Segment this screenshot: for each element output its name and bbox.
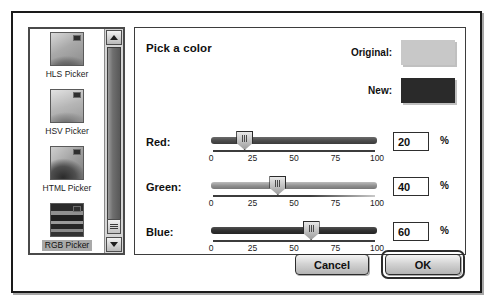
green-tick-axis <box>213 195 375 197</box>
scroll-down-button[interactable] <box>106 237 122 252</box>
red-value-input[interactable]: 20 <box>393 132 429 151</box>
blue-slider-track[interactable] <box>211 227 377 234</box>
blue-slider-label: Blue: <box>146 226 202 238</box>
sidebar-item-label: RGB Picker <box>42 240 92 251</box>
blue-slider[interactable]: 0255075100 <box>211 220 377 254</box>
green-tick-label: 50 <box>289 198 298 209</box>
blue-tick-axis <box>213 240 375 242</box>
dialog-button-bar: Cancel OK <box>295 250 465 279</box>
blue-tick-label: 25 <box>248 243 257 254</box>
red-tick-labels: 0255075100 <box>211 153 377 165</box>
color-panel: Pick a color Original: New: Red: 0255075… <box>134 27 466 255</box>
grip-line <box>110 228 118 229</box>
grip-line <box>110 224 118 225</box>
red-slider-label: Red: <box>146 136 202 148</box>
rgb-picker-thumbnail-icon <box>50 203 84 237</box>
blue-unit-label: % <box>440 225 449 236</box>
ok-button-default-ring: OK <box>381 250 465 279</box>
original-color-label: Original: <box>332 47 392 58</box>
new-color-row: New: <box>332 78 455 103</box>
green-tick-label: 75 <box>331 198 340 209</box>
red-slider[interactable]: 0255075100 <box>211 130 377 164</box>
thumbnail-badge-icon <box>73 149 81 155</box>
page-title: Pick a color <box>146 42 212 54</box>
green-slider-thumb[interactable] <box>269 176 286 195</box>
picker-list-scrollbar[interactable] <box>104 29 123 253</box>
new-color-label: New: <box>332 85 392 96</box>
blue-tick-label: 0 <box>209 243 214 254</box>
scroll-up-button[interactable] <box>106 30 122 45</box>
red-slider-row: Red: 0255075100 20 % <box>146 130 455 172</box>
cancel-button[interactable]: Cancel <box>295 254 369 275</box>
thumb-grip-icon <box>242 135 247 142</box>
sidebar-item-label: HSV Picker <box>42 126 91 137</box>
blue-value-input[interactable]: 60 <box>393 222 429 241</box>
ok-button[interactable]: OK <box>385 254 461 275</box>
original-color-row: Original: <box>332 40 455 65</box>
hls-picker-thumbnail-icon <box>50 32 84 66</box>
new-color-swatch <box>401 78 455 103</box>
sidebar-item-hls-picker[interactable]: HLS Picker <box>30 29 104 86</box>
red-tick-label: 0 <box>209 153 214 164</box>
green-unit-label: % <box>440 180 449 191</box>
sidebar-item-rgb-picker[interactable]: RGB Picker <box>30 200 104 253</box>
scrollbar-thumb[interactable] <box>107 47 121 223</box>
red-tick-axis <box>213 150 375 152</box>
green-tick-label: 25 <box>248 198 257 209</box>
triangle-down-icon <box>110 242 118 247</box>
sidebar-item-hsv-picker[interactable]: HSV Picker <box>30 86 104 143</box>
red-tick-label: 75 <box>331 153 340 164</box>
red-unit-label: % <box>440 135 449 146</box>
red-slider-thumb[interactable] <box>236 131 253 150</box>
triangle-up-icon <box>110 35 118 40</box>
picker-list[interactable]: HLS Picker HSV Picker HTML Picker <box>30 29 104 253</box>
dialog-inner-frame: HLS Picker HSV Picker HTML Picker <box>13 13 480 291</box>
green-value-input[interactable]: 40 <box>393 177 429 196</box>
green-slider[interactable]: 0255075100 <box>211 175 377 209</box>
red-tick-label: 50 <box>289 153 298 164</box>
original-color-swatch <box>401 40 455 65</box>
blue-slider-thumb[interactable] <box>303 221 320 240</box>
green-tick-labels: 0255075100 <box>211 198 377 210</box>
grip-line <box>110 226 118 227</box>
hsv-picker-thumbnail-icon <box>50 89 84 123</box>
green-slider-track[interactable] <box>211 182 377 189</box>
sidebar-item-label: HLS Picker <box>43 69 92 80</box>
green-slider-row: Green: 0255075100 40 % <box>146 175 455 217</box>
red-tick-label: 100 <box>370 153 384 164</box>
sidebar-item-html-picker[interactable]: HTML Picker <box>30 143 104 200</box>
picker-list-frame: HLS Picker HSV Picker HTML Picker <box>28 27 125 255</box>
color-picker-dialog: HLS Picker HSV Picker HTML Picker <box>11 11 482 293</box>
sidebar-item-label: HTML Picker <box>40 183 95 194</box>
html-picker-thumbnail-icon <box>50 146 84 180</box>
resize-grip-icon[interactable] <box>107 219 121 234</box>
red-slider-track[interactable] <box>211 137 377 144</box>
thumb-grip-icon <box>275 180 280 187</box>
green-slider-label: Green: <box>146 181 202 193</box>
thumbnail-badge-icon <box>73 92 81 98</box>
red-tick-label: 25 <box>248 153 257 164</box>
thumbnail-badge-icon <box>73 35 81 41</box>
green-tick-label: 0 <box>209 198 214 209</box>
green-tick-label: 100 <box>370 198 384 209</box>
thumb-grip-icon <box>309 225 314 232</box>
thumbnail-badge-icon <box>73 206 81 212</box>
